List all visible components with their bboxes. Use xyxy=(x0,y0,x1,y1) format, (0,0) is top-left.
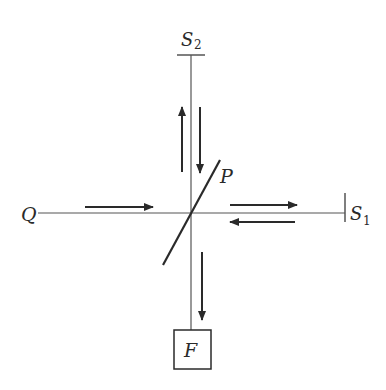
label-s2-letter: S xyxy=(181,29,193,50)
label-s1-sub: 1 xyxy=(363,214,371,228)
label-s1-letter: S xyxy=(350,203,362,224)
label-p: P xyxy=(219,165,234,187)
interferometer-diagram: Q P S 2 S 1 F xyxy=(0,0,386,390)
label-q: Q xyxy=(21,203,37,225)
label-f: F xyxy=(183,339,198,361)
label-s2-sub: 2 xyxy=(194,38,202,52)
